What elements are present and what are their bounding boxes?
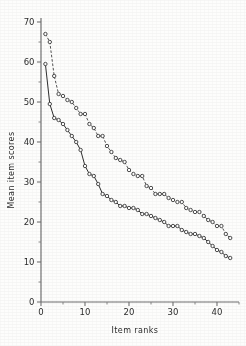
tick-labels: 010203040506070010203040 (24, 17, 223, 317)
data-point-marker (141, 212, 144, 215)
data-point-marker (66, 128, 69, 131)
data-point-marker (132, 172, 135, 175)
data-point-marker (97, 182, 100, 185)
data-point-marker (48, 102, 51, 105)
data-point-marker (127, 168, 130, 171)
data-point-marker (119, 158, 122, 161)
data-point-marker (224, 254, 227, 257)
y-axis-tick-label: 0 (29, 297, 34, 307)
x-axis-label: Item ranks (112, 326, 159, 335)
data-point-marker (110, 150, 113, 153)
data-point-marker (132, 206, 135, 209)
data-point-marker (114, 200, 117, 203)
y-axis-tick-label: 60 (24, 57, 35, 67)
data-point-marker (176, 224, 179, 227)
data-point-marker (202, 214, 205, 217)
data-point-marker (119, 204, 122, 207)
y-axis-tick-label: 10 (24, 257, 35, 267)
x-axis-tick-label: 20 (124, 307, 135, 317)
data-point-marker (211, 244, 214, 247)
figure-container: 010203040506070010203040 Item ranks Mean… (0, 0, 246, 346)
data-point-marker (220, 224, 223, 227)
data-point-marker (180, 200, 183, 203)
data-point-marker (171, 224, 174, 227)
data-point-marker (149, 186, 152, 189)
data-point-marker (163, 220, 166, 223)
data-point-marker (207, 240, 210, 243)
y-axis-tick-label: 40 (24, 137, 35, 147)
data-point-marker (141, 174, 144, 177)
data-point-marker (75, 140, 78, 143)
data-point-marker (158, 218, 161, 221)
data-point-marker (180, 228, 183, 231)
data-point-marker (163, 192, 166, 195)
data-point-marker (110, 198, 113, 201)
data-point-marker (44, 62, 47, 65)
data-point-marker (211, 220, 214, 223)
data-point-marker (114, 156, 117, 159)
data-point-marker (189, 208, 192, 211)
data-point-marker (79, 112, 82, 115)
y-axis-tick-label: 50 (24, 97, 35, 107)
series-line (45, 64, 230, 258)
data-point-marker (101, 134, 104, 137)
data-point-marker (57, 118, 60, 121)
data-point-marker (202, 236, 205, 239)
y-axis-tick-label: 30 (24, 177, 35, 187)
data-point-marker (92, 126, 95, 129)
data-point-marker (229, 256, 232, 259)
data-point-marker (193, 232, 196, 235)
data-point-marker (92, 174, 95, 177)
x-axis-tick-label: 0 (38, 307, 43, 317)
data-point-marker (88, 122, 91, 125)
data-point-marker (83, 112, 86, 115)
y-axis-tick-label: 70 (24, 17, 35, 27)
data-point-marker (70, 134, 73, 137)
data-point-marker (185, 230, 188, 233)
data-point-marker (123, 160, 126, 163)
data-point-marker (101, 192, 104, 195)
data-point-marker (136, 208, 139, 211)
x-axis-tick-label: 30 (168, 307, 179, 317)
y-axis-label: Mean item scores (7, 131, 16, 208)
data-point-marker (167, 224, 170, 227)
data-point-marker (215, 224, 218, 227)
data-point-marker (198, 210, 201, 213)
data-point-marker (61, 122, 64, 125)
data-point-marker (127, 206, 130, 209)
data-point-marker (123, 204, 126, 207)
series-plot-area (44, 32, 232, 259)
line-chart: 010203040506070010203040 Item ranks Mean… (0, 0, 246, 346)
data-point-marker (57, 92, 60, 95)
data-point-marker (70, 100, 73, 103)
data-point-marker (105, 194, 108, 197)
data-point-marker (224, 232, 227, 235)
data-point-marker (75, 106, 78, 109)
x-axis-tick-label: 40 (212, 307, 223, 317)
data-point-marker (105, 144, 108, 147)
data-point-marker (145, 184, 148, 187)
data-point-marker (220, 250, 223, 253)
data-point-marker (171, 198, 174, 201)
data-point-marker (53, 74, 56, 77)
data-point-marker (198, 234, 201, 237)
data-point-marker (145, 212, 148, 215)
data-point-marker (53, 116, 56, 119)
data-point-marker (149, 214, 152, 217)
data-point-marker (97, 134, 100, 137)
axes (37, 18, 239, 306)
data-point-marker (189, 232, 192, 235)
data-point-marker (229, 236, 232, 239)
data-point-marker (207, 218, 210, 221)
data-point-marker (79, 148, 82, 151)
data-point-marker (158, 192, 161, 195)
data-point-marker (176, 200, 179, 203)
data-point-marker (88, 172, 91, 175)
data-point-marker (48, 40, 51, 43)
data-point-marker (167, 196, 170, 199)
data-point-marker (83, 164, 86, 167)
data-point-marker (185, 206, 188, 209)
data-point-marker (193, 210, 196, 213)
data-point-marker (136, 174, 139, 177)
data-point-marker (66, 98, 69, 101)
